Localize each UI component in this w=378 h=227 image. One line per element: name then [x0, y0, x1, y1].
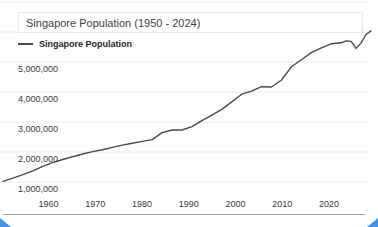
chart-legend[interactable]: Singapore Population: [18, 39, 132, 49]
legend-line-swatch: [18, 43, 33, 45]
y-axis-label: 4,000,000: [18, 95, 58, 104]
population-chart-widget: Singapore Population (1950 - 2024) Singa…: [0, 0, 378, 227]
resize-handle-bottom-right[interactable]: [367, 218, 378, 227]
x-axis-label: 2010: [272, 200, 292, 209]
y-axis-label: 5,000,000: [18, 65, 58, 74]
x-axis-label: 1980: [132, 200, 152, 209]
y-axis-label: 3,000,000: [18, 125, 58, 134]
population-line-series[interactable]: [3, 31, 371, 181]
y-axis-label: 2,000,000: [18, 155, 58, 164]
chart-title: Singapore Population (1950 - 2024): [19, 17, 200, 29]
x-axis-label: 1990: [179, 200, 199, 209]
legend-label: Singapore Population: [39, 39, 132, 49]
x-axis-label: 2020: [319, 200, 339, 209]
y-axis-label: 1,000,000: [18, 185, 58, 194]
x-axis-label: 1970: [85, 200, 105, 209]
x-axis-label: 1960: [38, 200, 58, 209]
chart-title-box: Singapore Population (1950 - 2024): [18, 12, 363, 33]
x-axis-label: 2000: [225, 200, 245, 209]
resize-handle-bottom-left[interactable]: [0, 218, 11, 227]
